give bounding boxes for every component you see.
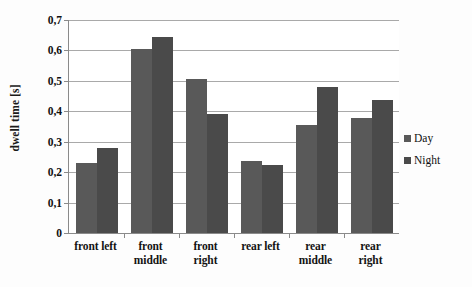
legend-label: Night	[414, 154, 440, 166]
bar-group	[234, 20, 289, 233]
category-label-line2: middle	[288, 254, 343, 268]
y-tick-label: 0,3	[48, 136, 62, 148]
legend-item-day[interactable]: Day	[404, 132, 470, 144]
bar-day	[76, 163, 97, 233]
y-tick-label: 0,4	[48, 105, 62, 117]
legend-swatch-icon	[404, 157, 411, 164]
legend-swatch-icon	[404, 135, 411, 142]
legend-item-night[interactable]: Night	[404, 154, 470, 166]
y-axis-tick-labels: 00,10,20,30,40,50,60,7	[28, 20, 66, 233]
x-axis-separator	[289, 233, 290, 238]
category-label-line2: right	[178, 254, 233, 268]
x-axis-separator	[179, 233, 180, 238]
category-label: rearmiddle	[288, 240, 343, 285]
bar-group	[344, 20, 399, 233]
legend-label: Day	[414, 132, 433, 144]
category-label-line1: rear	[305, 240, 325, 252]
category-label-line1: rear left	[241, 240, 280, 252]
x-axis-category-labels: front leftfrontmiddlefrontrightrear left…	[68, 240, 398, 285]
category-label-line1: front	[138, 240, 162, 252]
chart-legend: DayNight	[404, 132, 470, 176]
bar-night	[317, 87, 338, 233]
bar-chart-figure: dwell time [s] 00,10,20,30,40,50,60,7 fr…	[0, 0, 472, 287]
x-axis-separator	[344, 233, 345, 238]
bar-night	[97, 148, 118, 233]
category-label-line2: right	[343, 254, 398, 268]
x-axis-separator	[124, 233, 125, 238]
bars-layer	[69, 20, 399, 233]
y-tick-label: 0,2	[48, 166, 62, 178]
bar-group	[124, 20, 179, 233]
bar-day	[296, 125, 317, 233]
bar-day	[241, 161, 262, 233]
bar-group	[179, 20, 234, 233]
bar-day	[131, 49, 152, 233]
category-label-line2: middle	[123, 254, 178, 268]
category-label-line1: rear	[360, 240, 380, 252]
y-tick-label: 0,1	[48, 197, 62, 209]
y-tick-label: 0,5	[48, 75, 62, 87]
category-label-line1: front left	[74, 240, 117, 252]
x-axis-separators	[69, 233, 399, 238]
x-axis-separator	[234, 233, 235, 238]
y-tick-label: 0,6	[48, 44, 62, 56]
bar-group	[69, 20, 124, 233]
bar-night	[207, 114, 228, 233]
bar-day	[186, 79, 207, 233]
bar-night	[262, 165, 283, 233]
bar-night	[152, 37, 173, 233]
category-label: frontright	[178, 240, 233, 285]
category-label: frontmiddle	[123, 240, 178, 285]
y-tick-label: 0	[56, 227, 62, 239]
category-label: front left	[68, 240, 123, 285]
bar-day	[351, 118, 372, 233]
bar-night	[372, 100, 393, 233]
plot-area	[68, 20, 399, 234]
bar-group	[289, 20, 344, 233]
y-axis-title-text: dwell time [s]	[9, 84, 21, 151]
y-tick-label: 0,7	[48, 14, 62, 26]
category-label: rearright	[343, 240, 398, 285]
category-label-line1: front	[193, 240, 217, 252]
category-label: rear left	[233, 240, 288, 285]
y-axis-title: dwell time [s]	[0, 0, 30, 235]
